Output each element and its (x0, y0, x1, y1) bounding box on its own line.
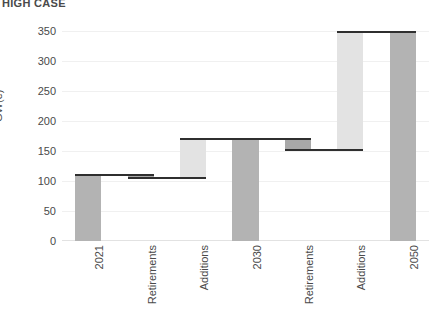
bar-total-2030[interactable] (232, 139, 258, 241)
x-axis-tick-label: Retirements (146, 245, 158, 304)
y-axis-tick-label: 100 (2, 175, 56, 187)
bar-body (75, 175, 101, 241)
x-axis-tick-label: Retirements (303, 245, 315, 304)
y-axis-tick-label: 250 (2, 85, 56, 97)
connector-line (232, 138, 311, 140)
connector-line (75, 174, 154, 176)
bar-increase-additions[interactable] (180, 139, 206, 178)
bar-body (232, 139, 258, 241)
y-axis-tick-label: 0 (2, 235, 56, 247)
waterfall-chart: HIGH CASE GW(e) 050100150200250300350 20… (0, 0, 435, 312)
x-axis-ticks: 2021RetirementsAdditions2030RetirementsA… (62, 243, 429, 312)
x-axis-tick-label: 2030 (251, 245, 263, 269)
x-axis-tick-label: 2050 (408, 245, 420, 269)
chart-title: HIGH CASE (2, 0, 66, 9)
bar-total-2050[interactable] (390, 32, 416, 241)
bar-body (337, 32, 363, 150)
bar-increase-additions[interactable] (337, 32, 363, 150)
x-axis-tick-label: Additions (355, 245, 367, 290)
gridline (62, 61, 429, 62)
y-axis-tick-label: 200 (2, 115, 56, 127)
plot-area (62, 22, 429, 241)
connector-line (337, 31, 416, 33)
gridline (62, 121, 429, 122)
x-axis-tick-label: Additions (198, 245, 210, 290)
x-axis-tick-label: 2021 (93, 245, 105, 269)
y-axis-tick-label: 350 (2, 25, 56, 37)
y-axis-tick-label: 50 (2, 205, 56, 217)
connector-line (128, 177, 207, 179)
connector-line (285, 149, 364, 151)
y-axis-ticks: 050100150200250300350 (0, 22, 56, 241)
y-axis-tick-label: 300 (2, 55, 56, 67)
bar-body (390, 32, 416, 241)
gridline (62, 91, 429, 92)
bar-total-2021[interactable] (75, 175, 101, 241)
y-axis-tick-label: 150 (2, 145, 56, 157)
bar-body (180, 139, 206, 178)
